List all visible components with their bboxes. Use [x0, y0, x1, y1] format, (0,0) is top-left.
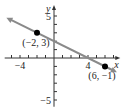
coordinate-plane: x y −4 4 5 −5 (−2, 3) (6, −1) [0, 0, 129, 108]
y-tick-label: −5 [40, 95, 51, 106]
x-tick-label: 4 [86, 60, 91, 71]
x-tick-label: −4 [15, 60, 26, 71]
data-point [102, 63, 108, 69]
y-axis-arrow [52, 5, 56, 10]
y-tick-label: 5 [46, 11, 51, 22]
x-axis-label: x [113, 59, 119, 70]
data-point [34, 30, 40, 36]
point-label: (6, −1) [88, 70, 115, 82]
point-label: (−2, 3) [22, 37, 49, 49]
